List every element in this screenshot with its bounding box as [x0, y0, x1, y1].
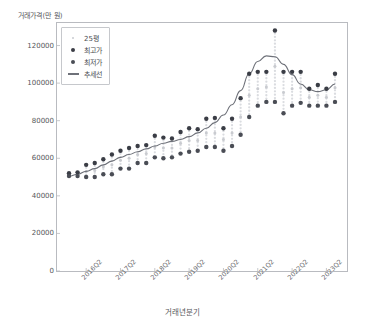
legend-label: 최저가 [84, 57, 102, 67]
y-axis-tick-label: 120000 [8, 42, 54, 50]
dot-icon [67, 48, 79, 52]
y-axis-tick-label: 20000 [8, 229, 54, 237]
legend-label: 최고가 [84, 45, 102, 55]
legend-label: 25평 [84, 33, 99, 43]
series-lowest-price [67, 100, 337, 180]
y-axis-tick-label: 60000 [8, 154, 54, 162]
legend-item-trend-line[interactable]: 추세선 [67, 68, 102, 80]
y-axis-tick-label: 0 [8, 267, 54, 275]
y-axis-tick-label: 40000 [8, 192, 54, 200]
y-axis-tick-label: 100000 [8, 79, 54, 87]
dot-icon [67, 60, 79, 64]
small-dot-icon [67, 37, 79, 40]
legend-item-25pyeong[interactable]: 25평 [67, 32, 102, 44]
x-axis-title: 거래년분기 [0, 306, 365, 317]
y-axis-tick-labels: 020000400006000080000100000120000 [2, 0, 54, 325]
price-trend-chart: 거래가격(만 원) 020000400006000080000100000120… [0, 0, 365, 325]
y-axis-tick-label: 80000 [8, 117, 54, 125]
legend-item-highest-price[interactable]: 최고가 [67, 44, 102, 56]
legend-item-lowest-price[interactable]: 최저가 [67, 56, 102, 68]
line-icon [67, 73, 79, 74]
chart-legend: 25평 최고가 최저가 추세선 [61, 27, 110, 85]
legend-label: 추세선 [84, 69, 102, 79]
range-connectors [85, 32, 336, 175]
